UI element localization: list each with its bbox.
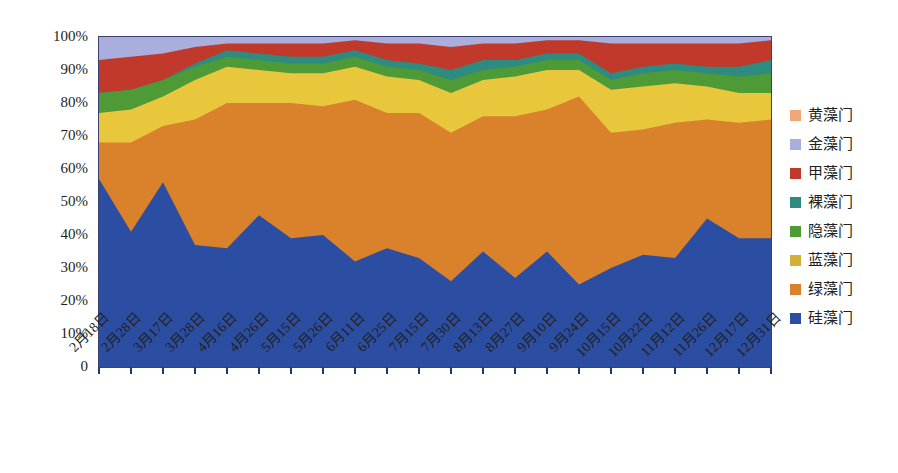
legend-swatch-icon (790, 313, 801, 324)
x-tick-mark (482, 367, 484, 374)
legend-label: 黄藻门 (808, 108, 853, 123)
x-tick-mark (674, 367, 676, 374)
legend-swatch-icon (790, 284, 801, 295)
x-tick-mark (642, 367, 644, 374)
legend-item[interactable]: 甲藻门 (790, 159, 890, 188)
x-tick-mark (226, 367, 228, 374)
x-tick-mark (130, 367, 132, 374)
legend-item[interactable]: 金藻门 (790, 130, 890, 159)
legend-label: 蓝藻门 (808, 253, 853, 268)
legend-item[interactable]: 硅藻门 (790, 304, 890, 333)
x-tick-mark (610, 367, 612, 374)
legend-swatch-icon (790, 197, 801, 208)
legend-item[interactable]: 裸藻门 (790, 188, 890, 217)
x-tick-mark (546, 367, 548, 374)
legend-item[interactable]: 绿藻门 (790, 275, 890, 304)
x-tick-mark (770, 367, 772, 374)
legend-item[interactable]: 隐藻门 (790, 217, 890, 246)
legend-swatch-icon (790, 226, 801, 237)
legend-label: 绿藻门 (808, 282, 853, 297)
x-tick-mark (706, 367, 708, 374)
x-tick-mark (194, 367, 196, 374)
x-tick-mark (322, 367, 324, 374)
legend-item[interactable]: 蓝藻门 (790, 246, 890, 275)
x-tick-mark (514, 367, 516, 374)
legend-label: 金藻门 (808, 137, 853, 152)
legend-swatch-icon (790, 110, 801, 121)
legend-label: 甲藻门 (808, 166, 853, 181)
x-tick-mark (258, 367, 260, 374)
x-axis: 2月18日2月28日3月17日3月28日4月16日4月26日5月15日5月26日… (0, 0, 898, 473)
legend-swatch-icon (790, 255, 801, 266)
x-tick-mark (162, 367, 164, 374)
legend-label: 隐藻门 (808, 224, 853, 239)
x-tick-mark (738, 367, 740, 374)
legend-swatch-icon (790, 139, 801, 150)
x-tick-mark (578, 367, 580, 374)
chart-legend: 黄藻门金藻门甲藻门裸藻门隐藻门蓝藻门绿藻门硅藻门 (790, 101, 890, 333)
legend-swatch-icon (790, 168, 801, 179)
x-tick-mark (386, 367, 388, 374)
x-tick-mark (354, 367, 356, 374)
x-tick-mark (98, 367, 100, 374)
x-tick-mark (418, 367, 420, 374)
stacked-area-chart: 100%90%80%70%60%50%40%30%20%10%0 2月18日2月… (0, 0, 898, 473)
x-tick-mark (290, 367, 292, 374)
legend-label: 裸藻门 (808, 195, 853, 210)
x-tick-mark (450, 367, 452, 374)
legend-item[interactable]: 黄藻门 (790, 101, 890, 130)
legend-label: 硅藻门 (808, 311, 853, 326)
